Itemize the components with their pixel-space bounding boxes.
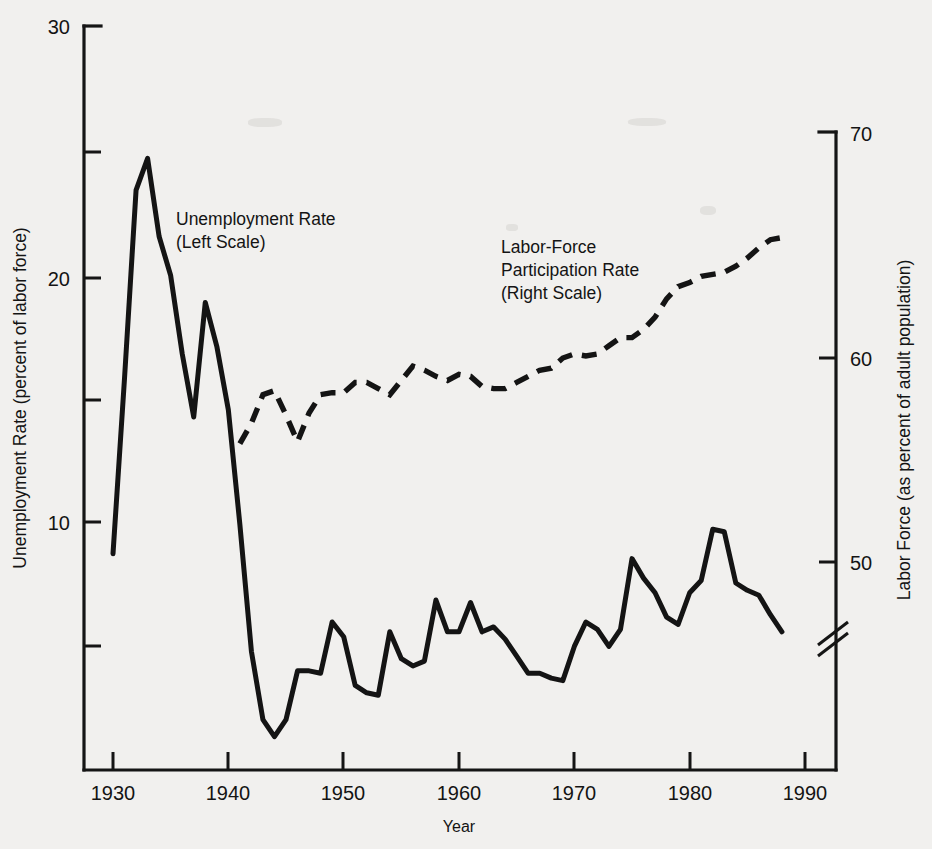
unemployment-annotation-line2: (Left Scale) xyxy=(176,232,265,252)
right-tick-label-60: 60 xyxy=(850,348,872,370)
x-tick-label-1940: 1940 xyxy=(206,782,251,804)
left-tick-labels: 30 20 10 xyxy=(48,16,70,534)
x-axis-title: Year xyxy=(443,818,476,835)
x-tick-labels: 1930 1940 1950 1960 1970 1980 1990 xyxy=(91,782,828,804)
x-tick-label-1960: 1960 xyxy=(437,782,482,804)
bottom-axis-ticks xyxy=(113,752,805,770)
left-tick-label-20: 20 xyxy=(48,268,70,290)
x-tick-label-1930: 1930 xyxy=(91,782,136,804)
right-axis-ticks xyxy=(818,358,848,656)
right-tick-label-50: 50 xyxy=(850,552,872,574)
left-axis-ticks xyxy=(84,152,101,646)
chart-figure: 30 20 10 70 60 50 1930 1940 1950 1960 19… xyxy=(0,0,932,849)
x-tick-label-1990: 1990 xyxy=(783,782,828,804)
y-right-axis-title: Labor Force (as percent of adult populat… xyxy=(894,260,914,600)
y-left-axis-title: Unemployment Rate (percent of labor forc… xyxy=(10,227,30,568)
participation-annotation-line1: Labor-Force xyxy=(501,237,596,257)
x-tick-label-1970: 1970 xyxy=(552,782,597,804)
participation-annotation: Labor-Force Participation Rate (Right Sc… xyxy=(501,237,639,303)
left-tick-label-30: 30 xyxy=(48,16,70,38)
unemployment-annotation-line1: Unemployment Rate xyxy=(176,209,336,229)
x-tick-label-1980: 1980 xyxy=(668,782,713,804)
participation-annotation-line3: (Right Scale) xyxy=(501,283,602,303)
chart-plot-area: 30 20 10 70 60 50 1930 1940 1950 1960 19… xyxy=(0,0,932,849)
left-tick-label-10: 10 xyxy=(48,512,70,534)
right-tick-labels: 70 60 50 xyxy=(850,123,872,574)
x-tick-label-1950: 1950 xyxy=(321,782,366,804)
participation-annotation-line2: Participation Rate xyxy=(501,260,639,280)
unemployment-annotation: Unemployment Rate (Left Scale) xyxy=(176,209,336,252)
right-tick-label-70: 70 xyxy=(850,123,872,145)
axis-break-icon xyxy=(818,622,848,656)
